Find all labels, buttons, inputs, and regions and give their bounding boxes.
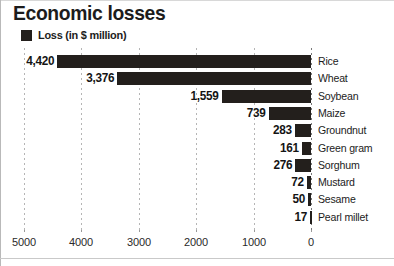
category-label: Maize bbox=[318, 106, 345, 120]
chart-row: 161Green gram bbox=[0, 141, 394, 158]
bar-pearl-millet bbox=[310, 211, 312, 224]
tick-mark-0 bbox=[311, 230, 312, 234]
tick-mark-5000 bbox=[24, 230, 25, 234]
bar-value-label: 739 bbox=[16, 106, 266, 120]
tick-mark-2000 bbox=[196, 230, 197, 234]
bar-value-label: 283 bbox=[18, 123, 292, 137]
tick-label-2000: 2000 bbox=[184, 236, 208, 248]
bar-value-label: 50 bbox=[18, 192, 305, 206]
tick-mark-3000 bbox=[139, 230, 140, 234]
bar-mustard bbox=[307, 176, 311, 189]
chart-row: 3,376Wheat bbox=[0, 71, 394, 88]
tick-mark-1000 bbox=[254, 230, 255, 234]
category-label: Soybean bbox=[318, 89, 358, 103]
tick-label-4000: 4000 bbox=[69, 236, 93, 248]
chart-row: 4,420Rice bbox=[0, 54, 394, 71]
bar-value-label: 276 bbox=[18, 158, 293, 172]
bar-value-label: 161 bbox=[18, 141, 299, 155]
page-title: Economic losses bbox=[13, 1, 165, 25]
bar-value-label: 4,420 bbox=[3, 54, 54, 68]
chart-screenshot: Economic losses Loss (in $ million) 4,42… bbox=[0, 0, 394, 266]
bar-green-gram bbox=[302, 142, 311, 155]
bar-wheat bbox=[117, 72, 311, 85]
chart-row: 276Sorghum bbox=[0, 158, 394, 175]
category-label: Green gram bbox=[318, 141, 372, 155]
tick-label-5000: 5000 bbox=[12, 236, 36, 248]
chart-row: 17Pearl millet bbox=[0, 210, 394, 227]
chart-row: 739Maize bbox=[0, 106, 394, 123]
bar-value-label: 72 bbox=[18, 175, 304, 189]
tick-label-0: 0 bbox=[308, 236, 314, 248]
legend-square-icon bbox=[21, 30, 32, 41]
chart-row: 50Sesame bbox=[0, 192, 394, 209]
category-label: Wheat bbox=[318, 71, 348, 85]
bar-rice bbox=[57, 55, 311, 68]
bar-groundnut bbox=[295, 124, 311, 137]
category-label: Pearl millet bbox=[318, 210, 368, 224]
bar-sorghum bbox=[295, 159, 311, 172]
bar-value-label: 1,559 bbox=[13, 89, 218, 103]
frame-bottom-rule bbox=[0, 258, 394, 259]
tick-label-3000: 3000 bbox=[127, 236, 151, 248]
bar-value-label: 3,376 bbox=[7, 71, 114, 85]
category-label: Rice bbox=[318, 54, 338, 68]
category-label: Groundnut bbox=[318, 123, 366, 137]
plot-area: 4,420Rice3,376Wheat1,559Soybean739Maize2… bbox=[0, 48, 394, 230]
tick-label-1000: 1000 bbox=[242, 236, 266, 248]
bar-sesame bbox=[308, 193, 311, 206]
chart-row: 72Mustard bbox=[0, 175, 394, 192]
bar-soybean bbox=[222, 90, 311, 103]
chart-row: 283Groundnut bbox=[0, 123, 394, 140]
tick-mark-4000 bbox=[81, 230, 82, 234]
chart-legend: Loss (in $ million) bbox=[21, 29, 131, 41]
category-label: Mustard bbox=[318, 175, 355, 189]
legend-label: Loss (in $ million) bbox=[38, 29, 126, 41]
bar-value-label: 17 bbox=[18, 210, 307, 224]
chart-row: 1,559Soybean bbox=[0, 89, 394, 106]
x-axis: 500040003000200010000 bbox=[0, 230, 394, 254]
bar-maize bbox=[269, 107, 311, 120]
category-label: Sorghum bbox=[318, 158, 360, 172]
category-label: Sesame bbox=[318, 192, 356, 206]
